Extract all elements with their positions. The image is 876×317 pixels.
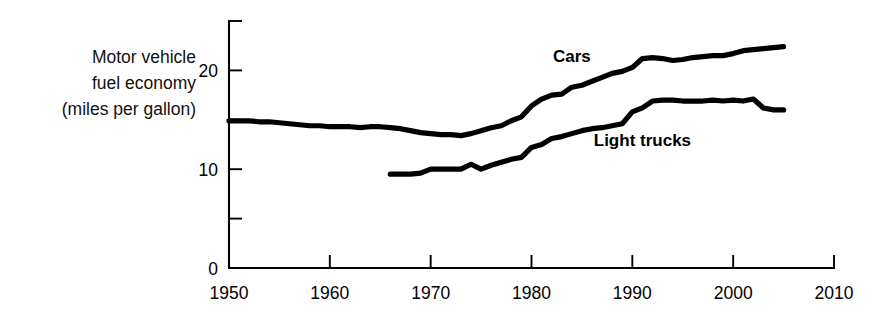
x-tick-label-2000: 2000 xyxy=(714,283,753,303)
y-axis-title-line-2: fuel economy xyxy=(10,70,196,96)
y-axis-title-line-1: Motor vehicle xyxy=(10,44,196,70)
y-tick-label-10: 10 xyxy=(199,160,219,180)
x-tick-label-1990: 1990 xyxy=(613,283,652,303)
y-axis-title: Motor vehicle fuel economy (miles per ga… xyxy=(10,44,196,122)
x-tick-label-1980: 1980 xyxy=(512,283,551,303)
y-tick-label-0: 0 xyxy=(208,259,218,279)
chart-axes xyxy=(229,21,834,268)
series-label-light-trucks: Light trucks xyxy=(594,131,691,150)
series-label-cars: Cars xyxy=(553,47,591,66)
series-line-cars xyxy=(229,47,784,136)
x-tick-label-1950: 1950 xyxy=(210,283,249,303)
x-tick-label-2010: 2010 xyxy=(815,283,854,303)
chart-figure: Motor vehicle fuel economy (miles per ga… xyxy=(0,0,876,317)
y-axis-tick-labels: 01020 xyxy=(199,61,219,279)
x-tick-label-1970: 1970 xyxy=(411,283,450,303)
x-axis-ticks xyxy=(330,255,834,268)
x-tick-label-1960: 1960 xyxy=(310,283,349,303)
y-tick-label-20: 20 xyxy=(199,61,219,81)
x-axis-tick-labels: 1950196019701980199020002010 xyxy=(210,283,854,303)
y-axis-title-line-3: (miles per gallon) xyxy=(10,96,196,122)
